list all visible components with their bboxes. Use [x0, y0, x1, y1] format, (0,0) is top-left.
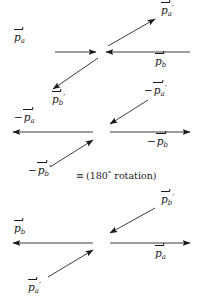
close-paren: )	[153, 170, 157, 181]
label-rot-p-b: pb	[14, 223, 25, 236]
arrow-rot-p-b-out	[110, 208, 155, 233]
rotation-annotation: ≡(180° rotation)	[76, 170, 157, 181]
label-p-a-in: pa	[14, 32, 25, 45]
vector-arrows-svg	[0, 0, 201, 307]
label-neg-p-b-out: −pb′	[28, 165, 51, 178]
arrow-rot-p-a-out	[48, 250, 93, 277]
degree-symbol: °	[108, 170, 112, 178]
label-p-a-out: pa′	[161, 5, 174, 18]
label-neg-p-a-out: −pa′	[144, 85, 167, 98]
arrow-neg-p-a-out	[110, 100, 148, 124]
label-rot-p-b-out: pb′	[161, 194, 174, 207]
rotation-value: 180	[90, 170, 108, 181]
label-p-b-in: pb	[155, 56, 166, 69]
label-rot-p-a-out: pa′	[28, 282, 41, 295]
arrow-p-a-out	[108, 19, 155, 46]
label-neg-p-a-in: −pa	[14, 112, 35, 125]
label-rot-p-a: pa	[155, 248, 166, 261]
label-neg-p-b-in: −pb	[147, 136, 168, 149]
arrow-p-b-out	[53, 58, 98, 89]
diagram-canvas: pa pb pa′ pb′ −pa −pb −pa′ −pb′ ≡(180° r…	[0, 0, 201, 307]
arrow-neg-p-b-out	[50, 140, 93, 167]
rotation-word: rotation	[114, 170, 152, 181]
label-p-b-out: pb′	[52, 94, 65, 107]
equivalence-symbol: ≡	[76, 170, 86, 181]
